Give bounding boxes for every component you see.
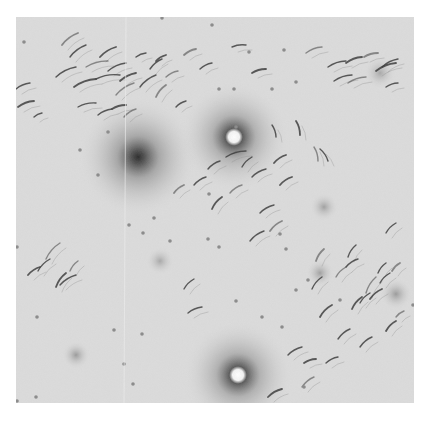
grain-overlay [16, 17, 414, 403]
micrograph-image [16, 17, 414, 403]
micrograph-canvas [16, 17, 414, 403]
